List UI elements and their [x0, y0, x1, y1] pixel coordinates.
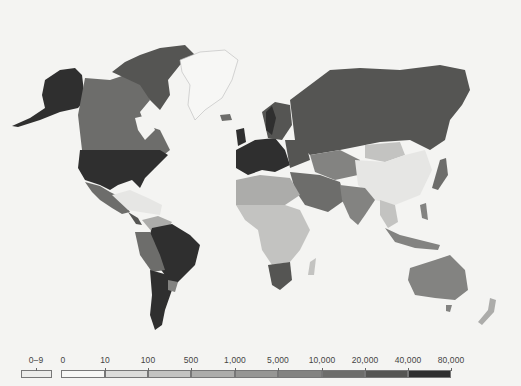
- legend-tick-label: 500: [184, 355, 198, 365]
- region-argentina-chile: [150, 270, 172, 330]
- region-uruguay: [168, 280, 178, 292]
- region-greenland: [180, 50, 238, 120]
- legend-tick-label: 40,000: [395, 355, 422, 365]
- legend-tick-label: 20,000: [352, 355, 379, 365]
- world-choropleth-map: [0, 0, 521, 345]
- legend-tick: [191, 368, 192, 371]
- legend-swatch-5000-10000: [278, 370, 322, 378]
- legend: 0–9 0 10 100 500 1,000 5,000 10,000 20,0…: [0, 355, 521, 386]
- legend-tick-label: 1,000: [224, 355, 246, 365]
- region-iceland: [220, 114, 232, 121]
- region-new-zealand: [478, 298, 496, 325]
- legend-swatch-0-10: [61, 370, 105, 378]
- legend-tick-label: 80,000: [438, 355, 465, 365]
- legend-tick-label: 10: [100, 355, 110, 365]
- legend-swatch-20000-40000: [365, 370, 408, 378]
- region-north-africa: [236, 175, 300, 210]
- legend-tick: [365, 368, 366, 371]
- legend-swatch-1000-5000: [235, 370, 278, 378]
- region-western-europe: [236, 138, 290, 175]
- region-australia: [408, 255, 468, 300]
- legend-tick: [105, 368, 106, 371]
- region-tasmania: [446, 305, 452, 312]
- region-southern-africa: [268, 262, 292, 290]
- legend-tick: [148, 368, 149, 371]
- legend-swatch-100-500: [148, 370, 191, 378]
- region-philippines: [420, 203, 428, 220]
- legend-swatch-500-1000: [191, 370, 235, 378]
- region-alaska: [12, 68, 85, 127]
- region-russia: [290, 65, 470, 155]
- region-sub-saharan-africa: [236, 205, 310, 265]
- legend-swatch-40000-80000: [408, 370, 451, 378]
- region-indonesia: [385, 228, 440, 250]
- legend-tick: [451, 368, 452, 371]
- legend-tick: [408, 368, 409, 371]
- region-madagascar: [308, 258, 316, 275]
- region-japan: [432, 158, 448, 190]
- legend-tick-label: 5,000: [267, 355, 289, 365]
- legend-swatch-0-9: [21, 370, 52, 378]
- legend-tick: [36, 368, 37, 371]
- region-central-america-isthmus: [128, 212, 142, 225]
- legend-tick: [235, 368, 236, 371]
- legend-tick-label: 10,000: [309, 355, 336, 365]
- legend-tick: [278, 368, 279, 371]
- legend-tick-label: 100: [141, 355, 155, 365]
- region-uk: [236, 128, 246, 146]
- legend-swatch-10-100: [105, 370, 148, 378]
- legend-tick-label: 0: [61, 355, 66, 365]
- legend-label-0-9: 0–9: [29, 355, 43, 365]
- legend-swatch-10000-20000: [322, 370, 365, 378]
- legend-tick: [322, 368, 323, 371]
